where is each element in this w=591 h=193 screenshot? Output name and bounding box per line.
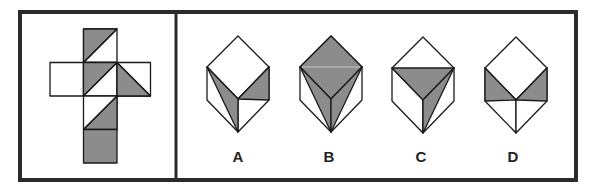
net-face-bottom — [84, 130, 118, 164]
net-face-left — [50, 63, 84, 97]
net-face-right — [117, 63, 151, 97]
puzzle-figure: A B C D — [0, 0, 591, 193]
net-face-square — [84, 130, 118, 164]
option-a-cube[interactable] — [207, 36, 269, 132]
cube-net — [50, 29, 151, 163]
option-d-cube[interactable] — [485, 37, 547, 133]
net-face-square — [50, 63, 84, 97]
option-a-label[interactable]: A — [233, 148, 244, 165]
option-c-cube[interactable] — [392, 37, 454, 133]
net-face-center — [84, 63, 118, 97]
option-b-cube[interactable] — [300, 36, 362, 132]
option-b-label[interactable]: B — [324, 148, 335, 165]
option-d-label[interactable]: D — [508, 148, 519, 165]
option-c-label[interactable]: C — [416, 148, 427, 165]
net-face-top — [84, 29, 118, 63]
net-face-lower — [84, 96, 118, 130]
